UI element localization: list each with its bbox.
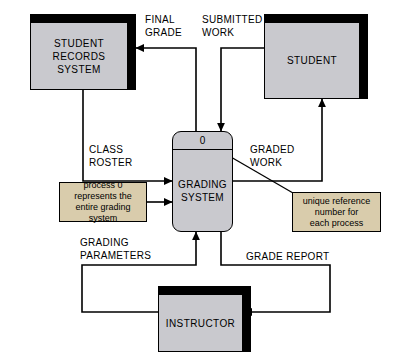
flow-label-grading-parameters: GRADING PARAMETERS: [80, 236, 151, 262]
process-grading-system[interactable]: 0 GRADING SYSTEM: [172, 131, 233, 232]
callout-reference-number-note: unique reference number for each process: [292, 192, 381, 232]
entity-instructor[interactable]: INSTRUCTOR: [158, 286, 251, 352]
dfd-canvas: STUDENT RECORDS SYSTEM STUDENT INSTRUCTO…: [0, 0, 395, 362]
entity-student-records-system[interactable]: STUDENT RECORDS SYSTEM: [30, 14, 136, 90]
flow-line-submitted-work: [221, 48, 264, 131]
entity-face: STUDENT RECORDS SYSTEM: [30, 22, 128, 90]
entity-student[interactable]: STUDENT: [264, 14, 368, 99]
entity-face: INSTRUCTOR: [158, 294, 243, 352]
flow-label-grade-report: GRADE REPORT: [246, 250, 329, 263]
process-reference-number: 0: [173, 132, 232, 150]
entity-label-student-records-system: STUDENT RECORDS SYSTEM: [31, 37, 127, 76]
entity-label-instructor: INSTRUCTOR: [166, 317, 235, 330]
flow-label-class-roster: CLASS ROSTER: [89, 143, 132, 169]
flow-label-final-grade: FINAL GRADE: [145, 13, 182, 39]
flow-label-submitted-work: SUBMITTED WORK: [202, 13, 262, 39]
entity-label-student: STUDENT: [287, 54, 337, 67]
flow-label-graded-work: GRADED WORK: [250, 143, 295, 169]
entity-face: STUDENT: [264, 22, 360, 99]
flow-line-final-grade: [136, 48, 196, 133]
callout-process-zero-note: process 0 represents the entire grading …: [59, 182, 147, 222]
process-label-grading-system: GRADING SYSTEM: [173, 150, 232, 231]
